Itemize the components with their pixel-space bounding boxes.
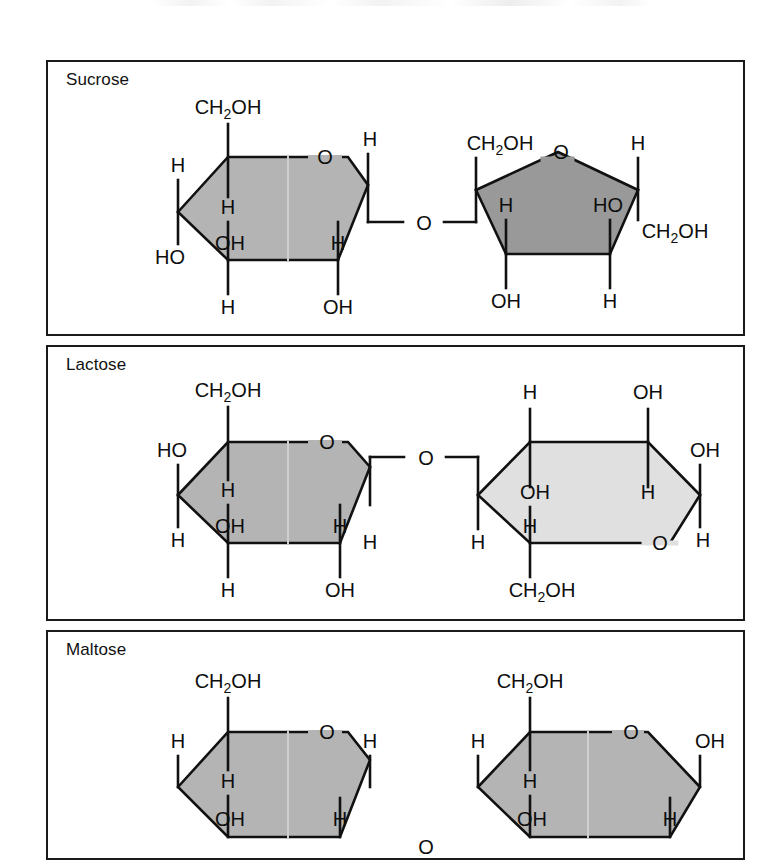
label-ring-oxygen: O bbox=[319, 431, 335, 453]
label-ring-oxygen: O bbox=[319, 721, 335, 743]
label-ch2oh-left: CH2OH bbox=[467, 132, 534, 158]
label-ho-upper-left: HO bbox=[157, 439, 187, 461]
label-oh-top-right: OH bbox=[633, 381, 663, 403]
label-ch2oh: CH2OH bbox=[195, 379, 262, 405]
label-h-bottom-right: H bbox=[603, 290, 617, 312]
label-oh-bottom-right: OH bbox=[323, 296, 353, 318]
panel-maltose: Maltose CH2OH H H OH O H H O bbox=[46, 630, 745, 860]
label-h-inner-right: H bbox=[641, 481, 655, 503]
label-oh-inner: OH bbox=[517, 808, 547, 830]
label-oh-right-upper: OH bbox=[695, 730, 725, 752]
label-oh-inner: OH bbox=[215, 515, 245, 537]
label-ring-oxygen: O bbox=[652, 532, 668, 554]
label-ring-oxygen: O bbox=[623, 721, 639, 743]
label-h-upper-left: H bbox=[171, 730, 185, 752]
label-h-upper-left: H bbox=[471, 730, 485, 752]
label-h-right-upper: H bbox=[363, 128, 377, 150]
label-ch2oh-right: CH2OH bbox=[642, 220, 709, 246]
label-h-inner-lower-left: H bbox=[523, 515, 537, 537]
label-h-right-upper: H bbox=[363, 730, 377, 752]
label-ch2oh: CH2OH bbox=[497, 670, 564, 696]
lactose-structure-canvas: O CH2OH HO H H OH H OH O H H bbox=[48, 347, 743, 619]
label-h-bottom-left: H bbox=[221, 296, 235, 318]
label-ch2oh: CH2OH bbox=[195, 96, 262, 122]
label-ho-lower-left: HO bbox=[155, 246, 185, 268]
label-oh-inner: OH bbox=[215, 232, 245, 254]
label-h-right-inner: H bbox=[331, 232, 345, 254]
label-ch2oh-bottom: CH2OH bbox=[509, 579, 576, 605]
label-h-top-left: H bbox=[523, 381, 537, 403]
label-ch2oh: CH2OH bbox=[195, 670, 262, 696]
label-h-inner: H bbox=[221, 196, 235, 218]
label-h-bottom-left: H bbox=[221, 579, 235, 601]
label-ring-oxygen: O bbox=[317, 146, 333, 168]
label-h-inner: H bbox=[221, 770, 235, 792]
label-oh-bottom-left: OH bbox=[491, 290, 521, 312]
maltose-structure-canvas: CH2OH H H OH O H H O CH2OH H bbox=[48, 632, 743, 858]
panel-sucrose: Sucrose bbox=[46, 60, 745, 336]
sucrose-glycosidic-oxygen: O bbox=[416, 212, 432, 234]
label-oh-bottom-right: OH bbox=[325, 579, 355, 601]
label-oh-right-upper: OH bbox=[690, 439, 720, 461]
label-h-upper-left: H bbox=[171, 154, 185, 176]
label-h-inner-left: H bbox=[499, 194, 513, 216]
label-h-right-inner: H bbox=[333, 808, 347, 830]
label-h-right-inner: H bbox=[663, 808, 677, 830]
lactose-glycosidic-oxygen: O bbox=[418, 447, 434, 469]
label-h-right-lower: H bbox=[696, 529, 710, 551]
sucrose-structure-canvas: O CH2OH H HO H OH H OH O H H bbox=[48, 62, 743, 334]
label-oh-inner: OH bbox=[215, 808, 245, 830]
label-ring-oxygen: O bbox=[553, 141, 569, 163]
maltose-glycosidic-oxygen: O bbox=[418, 836, 434, 858]
label-h-lower-left: H bbox=[171, 529, 185, 551]
label-h-left-outer: H bbox=[471, 531, 485, 553]
label-ho-inner-right: HO bbox=[593, 194, 623, 216]
label-oh-inner-left: OH bbox=[520, 481, 550, 503]
label-h-inner: H bbox=[221, 479, 235, 501]
label-h-inner: H bbox=[523, 770, 537, 792]
cut-off-text-remnant bbox=[150, 0, 650, 6]
label-h-right-lower: H bbox=[363, 531, 377, 553]
lactose-right-ring bbox=[478, 442, 700, 543]
label-h-right-top: H bbox=[631, 132, 645, 154]
label-h-right-inner: H bbox=[333, 515, 347, 537]
panel-lactose: Lactose O CH2OH bbox=[46, 345, 745, 621]
